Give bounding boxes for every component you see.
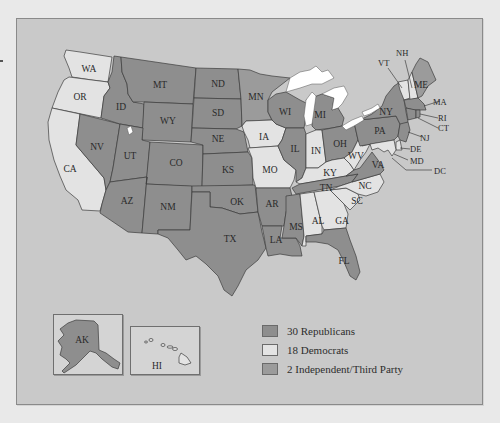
- svg-text:AK: AK: [75, 335, 89, 345]
- svg-text:IA: IA: [259, 132, 269, 142]
- svg-text:CO: CO: [169, 158, 182, 168]
- svg-text:OH: OH: [333, 139, 347, 149]
- svg-text:MT: MT: [153, 80, 167, 90]
- svg-text:ID: ID: [116, 102, 126, 112]
- svg-text:CA: CA: [63, 164, 76, 174]
- svg-text:WV: WV: [348, 151, 364, 161]
- svg-text:WY: WY: [160, 116, 176, 126]
- svg-text:FL: FL: [338, 256, 349, 266]
- swatch-republican: [262, 325, 278, 337]
- svg-text:VT: VT: [378, 58, 390, 68]
- state-fl[interactable]: [306, 228, 360, 280]
- svg-text:PA: PA: [374, 126, 385, 136]
- alaska-inset: AK: [53, 314, 123, 375]
- svg-text:LA: LA: [270, 235, 283, 245]
- state-ri[interactable]: [416, 110, 420, 118]
- swatch-democrat: [262, 344, 278, 356]
- legend: 30 Republicans 18 Democrats 2 Independen…: [262, 322, 403, 379]
- svg-text:DE: DE: [410, 144, 421, 154]
- hawaii-shape: HI: [131, 327, 199, 374]
- svg-text:NY: NY: [379, 107, 393, 117]
- legend-item-democrats: 18 Democrats: [262, 341, 403, 359]
- legend-item-republicans: 30 Republicans: [262, 322, 403, 340]
- svg-text:HI: HI: [152, 361, 162, 371]
- svg-text:NE: NE: [212, 134, 225, 144]
- legend-label: 18 Democrats: [287, 344, 348, 356]
- svg-text:SD: SD: [212, 108, 224, 118]
- svg-text:IL: IL: [291, 144, 300, 154]
- svg-text:UT: UT: [124, 151, 137, 161]
- svg-text:GA: GA: [335, 216, 349, 226]
- svg-text:KY: KY: [323, 168, 337, 178]
- svg-text:MA: MA: [433, 97, 448, 107]
- svg-text:AR: AR: [265, 199, 279, 209]
- svg-text:SC: SC: [351, 196, 363, 206]
- svg-text:DC: DC: [434, 166, 446, 176]
- svg-text:NJ: NJ: [420, 133, 430, 143]
- svg-text:TN: TN: [320, 183, 333, 193]
- svg-text:IN: IN: [311, 146, 321, 156]
- svg-text:MD: MD: [410, 156, 424, 166]
- svg-text:TX: TX: [224, 234, 237, 244]
- legend-item-independent: 2 Independent/Third Party: [262, 360, 403, 378]
- lake-superior: [286, 66, 334, 92]
- state-de[interactable]: [396, 140, 402, 150]
- svg-text:RI: RI: [438, 113, 447, 123]
- legend-label: 30 Republicans: [287, 325, 355, 337]
- svg-text:WI: WI: [279, 107, 291, 117]
- svg-text:NM: NM: [160, 202, 176, 212]
- svg-text:MI: MI: [314, 110, 326, 120]
- svg-text:VA: VA: [372, 160, 385, 170]
- svg-text:CT: CT: [438, 123, 450, 133]
- svg-text:AL: AL: [312, 216, 325, 226]
- swatch-independent: [262, 363, 278, 375]
- state-ct[interactable]: [406, 108, 416, 120]
- svg-text:NH: NH: [396, 48, 408, 58]
- svg-text:ND: ND: [211, 79, 225, 89]
- svg-text:KS: KS: [222, 165, 234, 175]
- svg-text:MS: MS: [289, 222, 303, 232]
- svg-text:OK: OK: [230, 197, 244, 207]
- legend-label: 2 Independent/Third Party: [287, 363, 403, 375]
- svg-text:NV: NV: [90, 142, 104, 152]
- svg-text:OR: OR: [73, 92, 87, 102]
- svg-text:MO: MO: [262, 165, 277, 175]
- svg-text:AZ: AZ: [121, 196, 134, 206]
- svg-text:WA: WA: [82, 64, 97, 74]
- svg-text:ME: ME: [414, 80, 428, 90]
- hawaii-inset: HI: [130, 326, 200, 375]
- alaska-shape: AK: [54, 315, 122, 374]
- svg-text:MN: MN: [248, 92, 263, 102]
- svg-text:NC: NC: [358, 181, 371, 191]
